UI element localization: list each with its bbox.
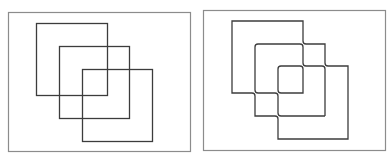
inner-outline-3: [278, 66, 303, 93]
panel-frame: [204, 11, 386, 151]
inner-outline-1: [255, 44, 325, 116]
square-3: [83, 70, 153, 142]
square-2: [60, 47, 130, 119]
left-panel: [9, 13, 191, 152]
overlapping-squares-diagram: [0, 0, 390, 157]
diagram-canvas: [0, 0, 390, 157]
square-1: [37, 24, 108, 96]
inner-outline-2: [303, 47, 325, 116]
merged-outline: [232, 21, 348, 139]
panel-frame: [9, 13, 191, 152]
right-panel: [204, 11, 386, 151]
